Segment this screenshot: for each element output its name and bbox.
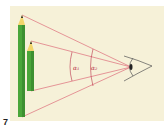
figure-number: 7 (3, 117, 8, 127)
pencil-tall (18, 15, 25, 117)
pencil-short (27, 41, 34, 91)
label-alpha2: α₂ (91, 64, 98, 71)
diagram-canvas: α₁ α₂ (0, 0, 168, 132)
label-alpha1: α₁ (73, 64, 79, 71)
